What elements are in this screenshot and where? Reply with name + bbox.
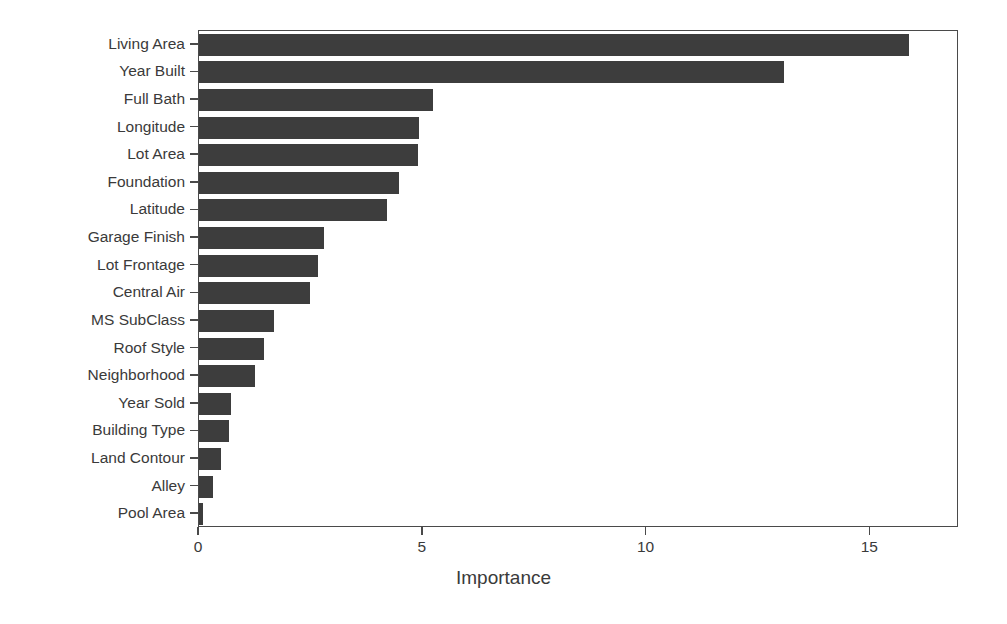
bar xyxy=(199,365,255,387)
bar-row xyxy=(199,252,957,280)
y-axis-tick-label: Lot Area xyxy=(127,147,185,163)
bar xyxy=(199,34,909,56)
bar xyxy=(199,172,399,194)
y-axis-tick xyxy=(190,457,198,459)
plot-area xyxy=(198,30,958,527)
y-axis-tick-label: Latitude xyxy=(130,202,185,218)
bar xyxy=(199,448,221,470)
bar-row xyxy=(199,86,957,114)
y-axis-tick xyxy=(190,319,198,321)
bar xyxy=(199,476,213,498)
x-axis-tick xyxy=(421,527,423,535)
y-axis-tick xyxy=(190,209,198,211)
y-axis-tick xyxy=(190,512,198,514)
bar-row xyxy=(199,169,957,197)
bar xyxy=(199,310,274,332)
bar-row xyxy=(199,390,957,418)
y-axis-tick-label: Garage Finish xyxy=(88,229,185,245)
bar-row xyxy=(199,224,957,252)
y-axis-tick xyxy=(190,292,198,294)
y-axis-tick xyxy=(190,374,198,376)
x-axis-tick-label: 0 xyxy=(194,539,203,555)
importance-bar-chart: Living AreaYear BuiltFull BathLongitudeL… xyxy=(0,0,1007,624)
bar-row xyxy=(199,500,957,528)
bar xyxy=(199,117,419,139)
bar-row xyxy=(199,445,957,473)
x-axis-tick xyxy=(869,527,871,535)
y-axis-tick-label: MS SubClass xyxy=(91,312,185,328)
y-axis-tick-label: Central Air xyxy=(113,285,185,301)
y-axis-tick xyxy=(190,153,198,155)
bar-row xyxy=(199,335,957,363)
y-axis-tick-label: Pool Area xyxy=(118,505,185,521)
y-axis-tick xyxy=(190,264,198,266)
bar xyxy=(199,144,418,166)
y-axis-tick xyxy=(190,126,198,128)
bar-row xyxy=(199,418,957,446)
y-axis-tick xyxy=(190,347,198,349)
y-axis-tick-label: Foundation xyxy=(107,174,185,190)
bar-row xyxy=(199,362,957,390)
x-axis-tick-label: 10 xyxy=(637,539,654,555)
y-axis-tick-label: Roof Style xyxy=(113,340,185,356)
y-axis-tick-label: Building Type xyxy=(92,423,185,439)
y-axis-tick-label: Full Bath xyxy=(124,91,185,107)
x-axis-tick-label: 5 xyxy=(417,539,426,555)
bar-row xyxy=(199,31,957,59)
bar xyxy=(199,282,310,304)
y-axis-tick xyxy=(190,98,198,100)
y-axis-tick xyxy=(190,71,198,73)
y-axis-tick-label: Living Area xyxy=(108,36,185,52)
y-axis-tick-label: Year Sold xyxy=(118,395,185,411)
bar-row xyxy=(199,307,957,335)
x-axis-title: Importance xyxy=(0,568,1007,587)
y-axis-tick xyxy=(190,485,198,487)
bar xyxy=(199,199,387,221)
x-axis-tick xyxy=(645,527,647,535)
bar xyxy=(199,393,231,415)
bar-row xyxy=(199,280,957,308)
y-axis-tick-label: Alley xyxy=(151,478,185,494)
bar-row xyxy=(199,114,957,142)
bar xyxy=(199,503,203,525)
x-axis-tick xyxy=(197,527,199,535)
y-axis-tick-label: Land Contour xyxy=(91,450,185,466)
bar xyxy=(199,89,433,111)
y-axis-tick xyxy=(190,181,198,183)
y-axis-tick-label: Lot Frontage xyxy=(97,257,185,273)
y-axis-tick-label: Longitude xyxy=(117,119,185,135)
bar xyxy=(199,338,264,360)
bar-row xyxy=(199,473,957,501)
bar xyxy=(199,255,318,277)
bar-row xyxy=(199,197,957,225)
bar xyxy=(199,227,324,249)
y-axis-tick-label: Year Built xyxy=(119,64,185,80)
bar-row xyxy=(199,59,957,87)
y-axis-tick xyxy=(190,430,198,432)
x-axis-tick-label: 15 xyxy=(861,539,878,555)
y-axis-tick-label: Neighborhood xyxy=(88,367,185,383)
y-axis-tick xyxy=(190,402,198,404)
y-axis-tick xyxy=(190,236,198,238)
y-axis-tick xyxy=(190,43,198,45)
bar xyxy=(199,420,229,442)
bar xyxy=(199,61,784,83)
bar-row xyxy=(199,141,957,169)
